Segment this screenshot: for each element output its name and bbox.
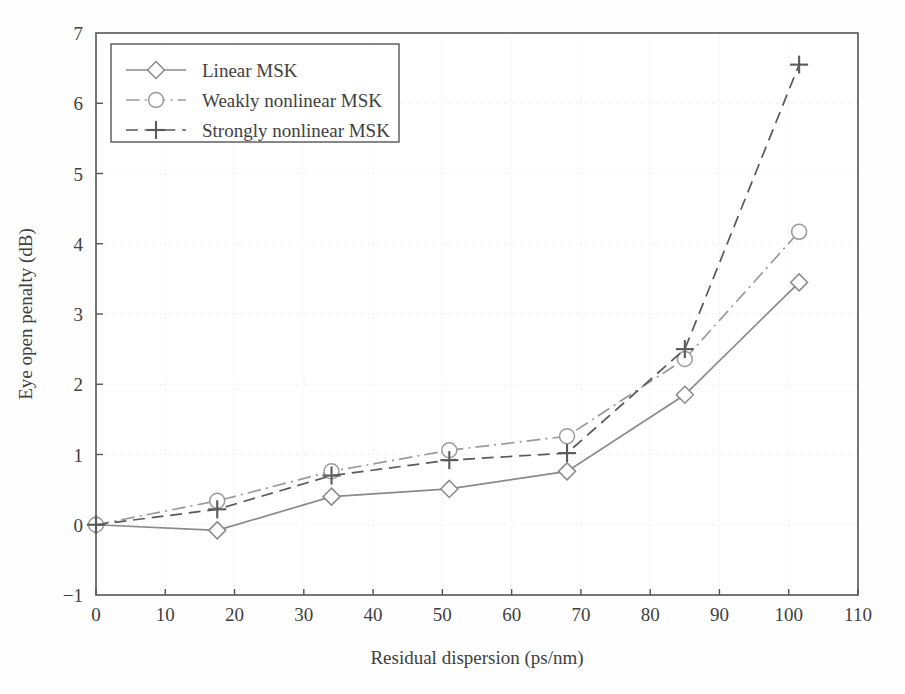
x-tick-label: 20 <box>225 604 244 625</box>
data-point-circle <box>149 93 164 108</box>
y-tick-label: 2 <box>74 374 84 395</box>
legend-label: Weakly nonlinear MSK <box>202 90 382 111</box>
data-point-circle <box>560 429 575 444</box>
x-tick-label: 30 <box>294 604 313 625</box>
x-axis-tick-labels: 0102030405060708090100110 <box>91 604 872 625</box>
y-tick-label: 0 <box>74 515 84 536</box>
circle-marker <box>149 93 164 108</box>
y-axis-title: Eye open penalty (dB) <box>15 228 37 399</box>
x-axis-title: Residual dispersion (ps/nm) <box>370 647 583 669</box>
x-tick-label: 0 <box>91 604 101 625</box>
eye-open-penalty-line-chart: 0102030405060708090100110 −101234567 Res… <box>0 0 905 694</box>
circle-marker <box>560 429 575 444</box>
x-tick-label: 50 <box>433 604 452 625</box>
legend-label: Linear MSK <box>202 60 298 81</box>
chart-legend: Linear MSKWeakly nonlinear MSKStrongly n… <box>111 44 399 142</box>
x-tick-label: 60 <box>502 604 521 625</box>
x-tick-label: 70 <box>571 604 590 625</box>
x-tick-label: 90 <box>710 604 729 625</box>
circle-marker <box>792 224 807 239</box>
y-tick-label: 7 <box>74 23 84 44</box>
x-tick-label: 10 <box>156 604 175 625</box>
x-tick-label: 40 <box>364 604 383 625</box>
y-tick-label: 1 <box>74 445 84 466</box>
y-tick-label: −1 <box>63 585 83 606</box>
x-tick-label: 100 <box>774 604 803 625</box>
y-tick-label: 4 <box>74 234 84 255</box>
x-tick-label: 80 <box>641 604 660 625</box>
y-axis-tick-labels: −101234567 <box>63 23 84 606</box>
chart-figure: 0102030405060708090100110 −101234567 Res… <box>0 0 905 694</box>
legend-label: Strongly nonlinear MSK <box>202 120 390 141</box>
data-point-circle <box>792 224 807 239</box>
y-tick-label: 5 <box>74 164 84 185</box>
x-tick-label: 110 <box>844 604 872 625</box>
y-tick-label: 6 <box>74 93 84 114</box>
y-tick-label: 3 <box>74 304 84 325</box>
